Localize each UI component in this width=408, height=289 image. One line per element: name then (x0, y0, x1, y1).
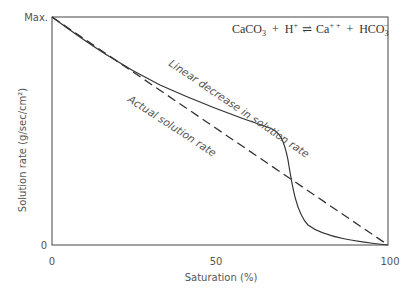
equation: CaCO3+H+⇌Ca+ ++HCO3− (232, 21, 389, 38)
y-tick-max: Max. (24, 12, 48, 23)
actual-curve-label: Actual solution rate (125, 92, 218, 159)
x-tick-100: 100 (380, 256, 399, 267)
x-tick-0: 0 (49, 256, 55, 267)
chart: Max. 0 0 50 100 Saturation (%) Solution … (0, 0, 408, 289)
x-tick-50: 50 (210, 256, 223, 267)
y-tick-zero: 0 (41, 240, 47, 251)
y-axis-title: Solution rate (g/sec/cm²) (17, 88, 28, 213)
x-axis-title: Saturation (%) (185, 272, 258, 283)
linear-decrease-line (52, 17, 388, 245)
